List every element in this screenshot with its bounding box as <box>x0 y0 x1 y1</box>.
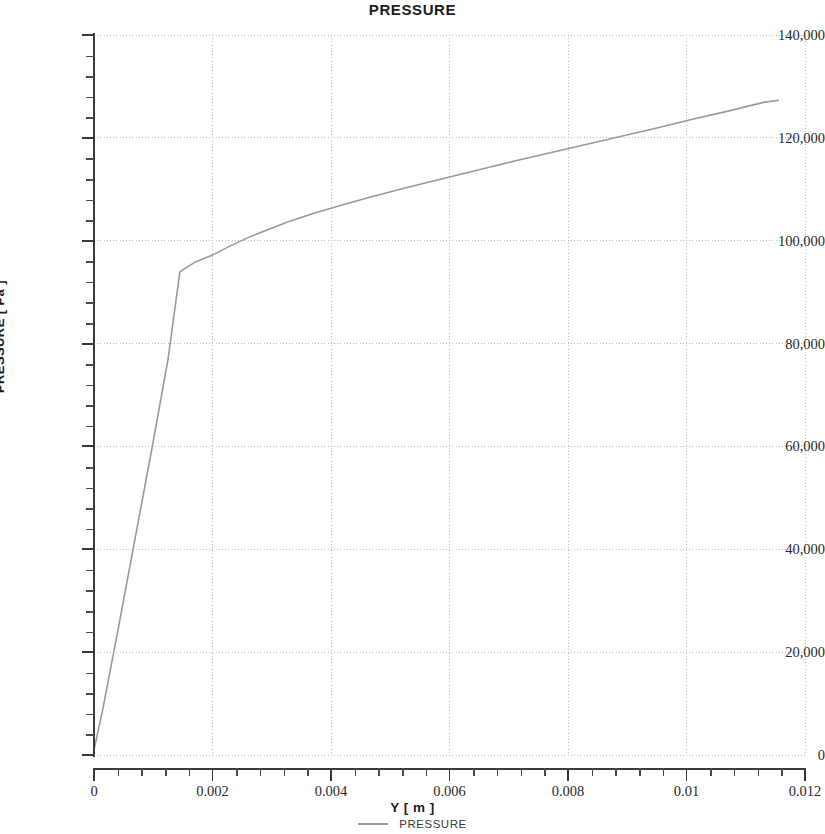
y-tick-minor <box>86 405 94 407</box>
y-tick-minor <box>86 734 94 736</box>
x-tick-minor <box>521 768 523 776</box>
y-tick-minor <box>86 97 94 99</box>
x-tick-minor <box>236 768 238 776</box>
y-tick-minor <box>86 508 94 510</box>
y-tick-minor <box>86 261 94 263</box>
gridlines <box>94 35 805 755</box>
x-tick-minor <box>307 768 309 776</box>
y-tick-major <box>82 548 94 550</box>
y-tick-minor <box>86 693 94 695</box>
y-tick-major <box>82 754 94 756</box>
x-tick-minor <box>710 768 712 776</box>
y-tick-major <box>82 343 94 345</box>
x-tick-label: 0.012 <box>789 783 822 800</box>
x-tick-minor <box>141 768 143 776</box>
y-axis-line <box>93 33 95 757</box>
y-tick-minor <box>86 467 94 469</box>
x-tick-label: 0.002 <box>196 783 229 800</box>
y-tick-label: 60,000 <box>747 438 825 455</box>
x-tick-major <box>212 768 214 781</box>
x-tick-minor <box>355 768 357 776</box>
y-tick-label: 0 <box>747 747 825 764</box>
y-tick-minor <box>86 529 94 531</box>
x-tick-minor <box>189 768 191 776</box>
y-tick-minor <box>86 282 94 284</box>
x-tick-label: 0.004 <box>315 783 348 800</box>
x-tick-minor <box>544 768 546 776</box>
y-tick-minor <box>86 364 94 366</box>
y-tick-minor <box>86 323 94 325</box>
y-tick-label: 80,000 <box>747 335 825 352</box>
x-tick-minor <box>118 768 120 776</box>
x-tick-minor <box>758 768 760 776</box>
x-tick-label: 0 <box>90 783 97 800</box>
x-tick-minor <box>473 768 475 776</box>
y-tick-label: 140,000 <box>747 27 825 44</box>
legend-label-pressure: PRESSURE <box>399 818 466 830</box>
y-tick-minor <box>86 302 94 304</box>
y-tick-minor <box>86 426 94 428</box>
y-tick-minor <box>86 220 94 222</box>
y-tick-minor <box>86 385 94 387</box>
y-tick-major <box>82 445 94 447</box>
x-tick-minor <box>165 768 167 776</box>
chart-legend: PRESSURE <box>0 818 825 830</box>
y-tick-minor <box>86 200 94 202</box>
x-tick-label: 0.008 <box>552 783 585 800</box>
y-tick-minor <box>86 488 94 490</box>
x-tick-major <box>804 768 806 781</box>
y-tick-minor <box>86 117 94 119</box>
x-tick-minor <box>497 768 499 776</box>
y-tick-label: 40,000 <box>747 541 825 558</box>
x-tick-minor <box>615 768 617 776</box>
y-tick-label: 20,000 <box>747 644 825 661</box>
y-tick-minor <box>86 714 94 716</box>
x-axis-title: Y [ m ] <box>0 800 825 815</box>
y-tick-minor <box>86 570 94 572</box>
x-tick-minor <box>260 768 262 776</box>
plot-frame: 020,00040,00060,00080,000100,000120,0001… <box>0 0 825 834</box>
x-tick-minor <box>663 768 665 776</box>
legend-line-swatch <box>358 823 388 825</box>
x-tick-major <box>93 768 95 781</box>
y-tick-label: 100,000 <box>747 232 825 249</box>
x-tick-major <box>686 768 688 781</box>
y-tick-major <box>82 137 94 139</box>
x-tick-minor <box>781 768 783 776</box>
x-tick-minor <box>284 768 286 776</box>
y-tick-minor <box>86 76 94 78</box>
x-tick-label: 0.01 <box>674 783 699 800</box>
x-tick-minor <box>378 768 380 776</box>
y-tick-minor <box>86 632 94 634</box>
y-tick-minor <box>86 158 94 160</box>
x-tick-minor <box>639 768 641 776</box>
x-tick-major <box>449 768 451 781</box>
x-tick-major <box>567 768 569 781</box>
y-axis-title: PRESSURE [ Pa ] <box>0 280 7 393</box>
y-tick-major <box>82 651 94 653</box>
x-tick-minor <box>426 768 428 776</box>
y-tick-minor <box>86 673 94 675</box>
y-tick-major <box>82 34 94 36</box>
y-tick-minor <box>86 179 94 181</box>
x-tick-label: 0.006 <box>433 783 466 800</box>
x-tick-minor <box>592 768 594 776</box>
chart-figure: PRESSURE 020,00040,00060,00080,000100,00… <box>0 0 825 834</box>
y-tick-label: 120,000 <box>747 129 825 146</box>
x-tick-minor <box>734 768 736 776</box>
y-tick-major <box>82 240 94 242</box>
x-tick-minor <box>402 768 404 776</box>
y-tick-minor <box>86 611 94 613</box>
y-tick-minor <box>86 56 94 58</box>
plot-canvas <box>0 0 825 834</box>
y-tick-minor <box>86 590 94 592</box>
x-tick-major <box>330 768 332 781</box>
